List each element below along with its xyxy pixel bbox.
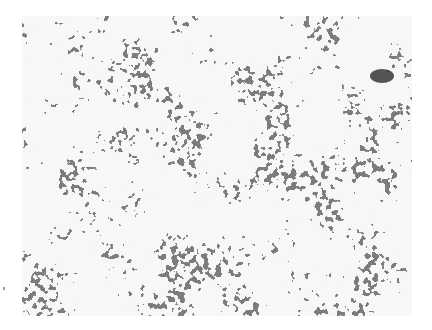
cell-clusters xyxy=(22,16,412,316)
edge-mark xyxy=(3,287,5,290)
dark-cell-cluster xyxy=(370,69,394,83)
micrograph-texture xyxy=(22,16,412,316)
histology-micrograph xyxy=(22,16,412,316)
page-canvas xyxy=(0,0,432,330)
